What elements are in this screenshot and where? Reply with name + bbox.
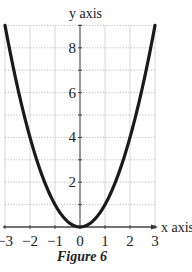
x-tick-label: −3: [0, 233, 13, 249]
y-tick-label: 4: [69, 129, 77, 145]
x-tick-label: −2: [22, 233, 38, 249]
x-tick-label: −1: [47, 233, 63, 249]
y-tick-label: 2: [69, 174, 77, 190]
x-tick-label: 2: [126, 233, 134, 249]
tick-labels: −3−2−101232468: [0, 40, 159, 249]
y-tick-label: 8: [69, 40, 77, 56]
x-axis-label: x axis: [161, 220, 192, 235]
x-tick-label: 3: [151, 233, 159, 249]
y-axis-label: y axis: [69, 6, 102, 21]
parabola-chart: −3−2−101232468 y axis x axis: [0, 0, 192, 272]
figure-caption-text: Figure 6: [57, 249, 107, 264]
y-tick-label: 6: [69, 85, 77, 101]
figure-caption: Figure 6: [0, 249, 192, 265]
x-tick-label: 1: [101, 233, 109, 249]
x-tick-label: 0: [76, 233, 84, 249]
